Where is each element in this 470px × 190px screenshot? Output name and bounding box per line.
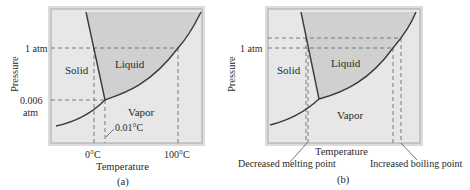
panel-b-xlabel: Temperature [315,146,368,157]
panel-a-xtick-100c: 100°C [164,149,190,160]
panel-b-vapor-label: Vapor [337,109,364,121]
panel-a-ytick-1atm: 1 atm [25,43,48,54]
panel-a-vapor-label: Vapor [128,106,155,118]
panel-a-xlabel: Temperature [96,161,149,172]
panel-b-liquid-label: Liquid [331,57,361,69]
panel-b: Solid Liquid Vapor 1 atm Temperature Dec… [226,6,462,186]
panel-a: Solid Liquid Vapor 0.01°C 1 atm 0.006 at… [9,6,205,188]
panel-b-ytick-1atm: 1 atm [240,43,263,54]
panel-a-ytick-0006: 0.006 [20,95,43,106]
panel-a-xtick-0c: 0°C [85,149,101,160]
panel-b-solid-label: Solid [277,64,301,76]
phase-diagrams-figure: Solid Liquid Vapor 0.01°C 1 atm 0.006 at… [0,0,470,190]
panel-b-melting-point-label: Decreased melting point [238,158,336,169]
panel-b-ylabel: Pressure [226,56,237,92]
panel-a-ylabel: Pressure [9,56,20,92]
panel-b-caption: (b) [337,174,350,186]
panel-a-liquid-label: Liquid [115,58,145,70]
panel-a-solid-label: Solid [65,64,89,76]
panel-b-boiling-point-label: Increased boiling point [370,158,462,169]
panel-a-ytick-atm: atm [23,107,38,118]
panel-a-caption: (a) [117,176,129,188]
panel-a-triple-point-temp: 0.01°C [115,122,143,133]
